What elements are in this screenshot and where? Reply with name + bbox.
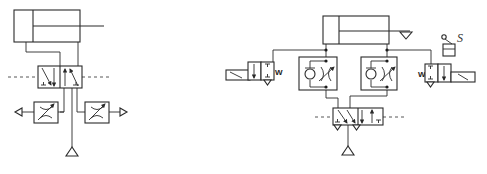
exhaust-icon — [427, 82, 434, 87]
left-cylinder — [14, 10, 104, 42]
pressure-source-icon — [66, 147, 78, 156]
exhaust-icon — [353, 125, 360, 130]
right-cylinder — [323, 16, 412, 44]
left-5-2-valve — [8, 66, 112, 88]
left-3-2-valve: W — [226, 62, 283, 85]
right-throttle — [85, 102, 127, 123]
spring-label-left: W — [275, 68, 283, 77]
exhaust-icon — [334, 125, 341, 130]
left-circuit — [8, 10, 127, 156]
right-5-2-valve — [315, 108, 405, 130]
right-check-throttle — [361, 57, 397, 90]
exhaust-right-icon — [120, 108, 127, 116]
left-check-throttle — [299, 57, 337, 90]
right-3-2-valve: W S — [418, 31, 475, 87]
exhaust-left-icon — [15, 108, 22, 116]
switch-label: S — [457, 31, 463, 45]
roller-icon — [442, 35, 446, 39]
cam-icon — [400, 32, 412, 39]
limit-switch-s: S — [442, 31, 463, 56]
left-throttle — [15, 102, 64, 123]
exhaust-icon — [264, 80, 271, 85]
right-circuit: W W S — [226, 16, 475, 155]
pressure-source-icon — [342, 146, 354, 155]
pneumatic-diagram: W W S — [0, 0, 487, 174]
solenoid-left-icon — [226, 70, 250, 80]
